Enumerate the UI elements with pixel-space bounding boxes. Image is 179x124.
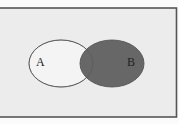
venn-diagram: A B: [0, 0, 179, 124]
set-a-label: A: [36, 55, 45, 69]
set-b-label: B: [127, 55, 135, 69]
